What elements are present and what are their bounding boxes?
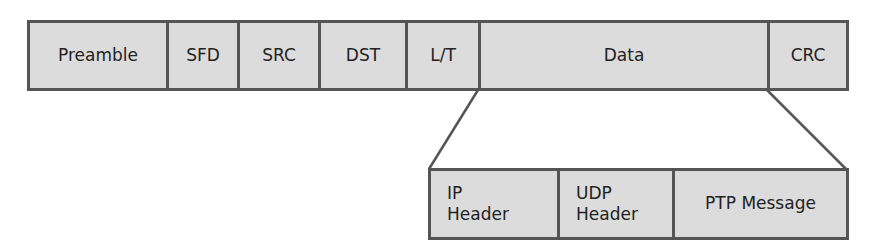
expansion-line-left <box>429 90 478 169</box>
field-preamble: Preamble <box>30 23 169 88</box>
field-data: Data <box>481 23 770 88</box>
field-sfd: SFD <box>169 23 240 88</box>
field-ptp-message: PTP Message <box>675 171 846 237</box>
field-dst: DST <box>321 23 408 88</box>
ethernet-frame: Preamble SFD SRC DST L/T Data CRC <box>27 20 849 91</box>
data-payload-expansion: IP Header UDP Header PTP Message <box>428 168 849 240</box>
field-src: SRC <box>240 23 321 88</box>
field-udp-header: UDP Header <box>560 171 675 237</box>
ip-header-line2: Header <box>447 204 509 225</box>
udp-header-line1: UDP <box>576 183 638 204</box>
udp-header-line2: Header <box>576 204 638 225</box>
field-ip-header: IP Header <box>431 171 560 237</box>
field-crc: CRC <box>770 23 846 88</box>
ip-header-line1: IP <box>447 183 509 204</box>
expansion-line-right <box>767 90 846 169</box>
field-length-type: L/T <box>408 23 481 88</box>
